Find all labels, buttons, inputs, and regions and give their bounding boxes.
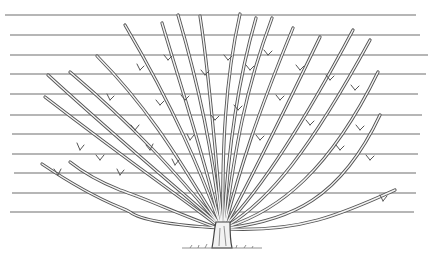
tree-trunk: [212, 222, 232, 248]
fan-trained-tree-drawing: [0, 0, 431, 256]
illustration-canvas: Fan-trained tree against wires: [0, 0, 431, 256]
tree-branches: [42, 14, 395, 229]
